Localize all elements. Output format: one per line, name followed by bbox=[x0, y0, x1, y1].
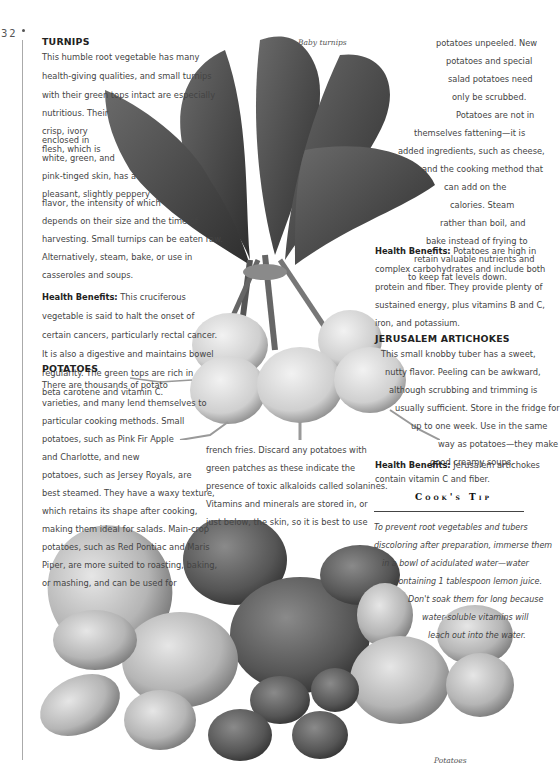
tip-line: To prevent root vegetables and tubers bbox=[374, 520, 528, 535]
heading-turnips: TURNIPS bbox=[42, 36, 90, 47]
text-line: nutty flavor. Peeling can be awkward, bbox=[385, 365, 541, 380]
text-line: french fries. Discard any potatoes with bbox=[206, 443, 367, 458]
tip-line: water-soluble vitamins will bbox=[422, 610, 528, 625]
text-line: flavor, the intensity of which bbox=[42, 196, 161, 211]
text-line: calories. Steam bbox=[450, 198, 514, 213]
text-line: Potatoes are not in bbox=[456, 108, 534, 123]
page-number: 32 bbox=[1, 28, 18, 39]
text-line: although scrubbing and trimming is bbox=[389, 383, 537, 398]
text-line: casseroles and soups. bbox=[42, 268, 133, 283]
tip-line: discoloring after preparation, immerse t… bbox=[374, 538, 552, 553]
text-line: enclosed in bbox=[42, 133, 89, 148]
text-line: protein and fiber. They provide plenty o… bbox=[375, 280, 542, 295]
text-line: potatoes and special bbox=[446, 54, 532, 69]
artichokes-health-benefits: Health Benefits: Jerusalem artichokes bbox=[375, 458, 540, 473]
text-line: themselves fattening—it is bbox=[414, 126, 525, 141]
cooks-tip-rule bbox=[374, 511, 524, 512]
text-line: rather than boil, and bbox=[440, 216, 526, 231]
tip-line: in a bowl of acidulated water—water bbox=[382, 556, 529, 571]
text-line: nutritious. Their bbox=[42, 106, 108, 121]
text-line: making them ideal for salads. Main-crop bbox=[42, 522, 209, 537]
text-line: complex carbohydrates and include both bbox=[375, 262, 545, 277]
text-line: pink-tinged skin, has a bbox=[42, 169, 136, 184]
text-line: with their green tops intact are especia… bbox=[42, 88, 215, 103]
text-line: contain vitamin C and fiber. bbox=[375, 472, 490, 487]
text-line: This small knobby tuber has a sweet, bbox=[381, 347, 536, 362]
turnips-health-benefits: Health Benefits: This cruciferous bbox=[42, 290, 186, 305]
health-benefits-label: Health Benefits: bbox=[375, 246, 451, 256]
text-line: iron, and potassium. bbox=[375, 316, 460, 331]
text-line: and Charlotte, and new bbox=[42, 450, 139, 465]
text-line: usually sufficient. Store in the fridge … bbox=[395, 401, 560, 416]
text-line: sustained energy, plus vitamins B and C, bbox=[375, 298, 545, 313]
caption-baby-turnips: Baby turnips bbox=[298, 38, 347, 47]
text-line: best steamed. They have a waxy texture, bbox=[42, 486, 215, 501]
text-line: salad potatoes need bbox=[448, 72, 533, 87]
tip-line: containing 1 tablespoon lemon juice. bbox=[394, 574, 542, 589]
text-line: way as potatoes—they make bbox=[438, 437, 558, 452]
text-line: white, green, and bbox=[42, 151, 115, 166]
text-line: varieties, and many lend themselves to bbox=[42, 396, 207, 411]
heading-jerusalem-artichokes: JERUSALEM ARTICHOKES bbox=[375, 333, 510, 344]
text-line: potatoes unpeeled. New bbox=[436, 36, 537, 51]
text-line: This humble root vegetable has many bbox=[42, 50, 199, 65]
text-line: potatoes, such as Jersey Royals, are bbox=[42, 468, 192, 483]
text-line: Alternatively, steam, bake, or use in bbox=[42, 250, 192, 265]
cooks-tip-title: Cook's Tip bbox=[415, 492, 492, 502]
text-line: vegetable is said to halt the onset of bbox=[42, 309, 194, 324]
text-line: can add on the bbox=[444, 180, 506, 195]
health-benefits-label: Health Benefits: bbox=[375, 460, 451, 470]
page-number-bullet bbox=[22, 29, 25, 32]
text-line: It is also a digestive and maintains bow… bbox=[42, 347, 214, 362]
text-line: harvesting. Small turnips can be eaten r… bbox=[42, 232, 223, 247]
text-line: potatoes, such as Pink Fir Apple bbox=[42, 432, 174, 447]
text-line: only be scrubbed. bbox=[452, 90, 526, 105]
text-line: depends on their size and the time of bbox=[42, 214, 198, 229]
text-line: just below, the skin, so it is best to u… bbox=[206, 515, 368, 530]
text-line: green patches as these indicate the bbox=[206, 461, 355, 476]
tip-line: leach out into the water. bbox=[428, 628, 526, 643]
text-line: Piper, are more suited to roasting, baki… bbox=[42, 558, 217, 573]
text-line: particular cooking methods. Small bbox=[42, 414, 184, 429]
health-benefits-label: Health Benefits: bbox=[42, 292, 118, 302]
text-line: or mashing, and can be used for bbox=[42, 576, 177, 591]
tip-line: Don't soak them for long because bbox=[408, 592, 543, 607]
text-line: potatoes, such as Red Pontiac and Maris bbox=[42, 540, 210, 555]
text-line: up to one week. Use in the same bbox=[411, 419, 547, 434]
text-line: which retains its shape after cooking, bbox=[42, 504, 197, 519]
text-line: presence of toxic alkaloids called solan… bbox=[206, 479, 388, 494]
potatoes-health-benefits: Health Benefits: Potatoes are high in bbox=[375, 244, 536, 259]
text-line: health-giving qualities, and small turni… bbox=[42, 69, 212, 84]
text-line: There are thousands of potato bbox=[42, 378, 168, 393]
text-line: added ingredients, such as cheese, bbox=[398, 144, 545, 159]
text-line: certain cancers, particularly rectal can… bbox=[42, 328, 217, 343]
text-line: Vitamins and minerals are stored in, or bbox=[206, 497, 368, 512]
heading-potatoes: POTATOES bbox=[42, 363, 98, 374]
text-line: and the cooking method that bbox=[422, 162, 543, 177]
caption-potatoes: Potatoes bbox=[434, 756, 467, 764]
